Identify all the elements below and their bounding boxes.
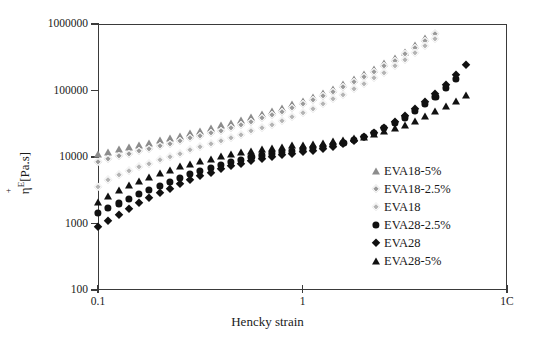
legend-marker-icon bbox=[368, 199, 384, 215]
data-point bbox=[156, 169, 164, 176]
legend-label: EVA28-5% bbox=[384, 255, 441, 268]
data-point bbox=[350, 135, 358, 142]
x-axis-title-text: Hencky strain bbox=[231, 314, 304, 329]
legend-label: EVA18-2.5% bbox=[384, 183, 451, 196]
data-point bbox=[431, 108, 439, 115]
chart-legend: EVA18-5%EVA18-2.5%EVA18EVA28-2.5%EVA28EV… bbox=[368, 162, 451, 270]
legend-item-eva28: EVA28 bbox=[368, 234, 451, 252]
data-point bbox=[247, 147, 255, 154]
data-point bbox=[196, 158, 204, 165]
data-point bbox=[319, 139, 327, 146]
legend-marker-icon bbox=[368, 217, 384, 233]
data-point bbox=[135, 177, 143, 184]
y-axis-title-text: ηE[Pa.s] bbox=[18, 152, 33, 194]
data-point bbox=[278, 143, 286, 150]
legend-label: EVA28-2.5% bbox=[384, 219, 451, 232]
legend-item-eva18: EVA18 bbox=[368, 198, 451, 216]
data-point bbox=[339, 137, 347, 144]
data-point bbox=[237, 149, 245, 156]
data-point bbox=[462, 91, 470, 98]
legend-item-eva28-5: EVA28-5% bbox=[368, 252, 451, 270]
data-point bbox=[299, 141, 307, 148]
data-point bbox=[391, 125, 399, 132]
data-point bbox=[380, 128, 388, 135]
y-axis-title: ηE[Pa.s] bbox=[14, 118, 36, 228]
y-axis-superscript-plus: + bbox=[6, 186, 11, 195]
data-point bbox=[309, 140, 317, 147]
legend-marker-icon bbox=[368, 253, 384, 269]
legend-marker-icon bbox=[368, 163, 384, 179]
data-series bbox=[0, 0, 535, 346]
legend-item-eva18-2-5: EVA18-2.5% bbox=[368, 180, 451, 198]
data-point bbox=[227, 151, 235, 158]
data-point bbox=[258, 146, 266, 153]
data-point bbox=[186, 160, 194, 167]
data-point bbox=[268, 144, 276, 151]
data-point bbox=[94, 199, 102, 206]
legend-marker-icon bbox=[368, 235, 384, 251]
data-point bbox=[288, 142, 296, 149]
data-point bbox=[217, 153, 225, 160]
data-point bbox=[115, 187, 123, 194]
data-point bbox=[452, 97, 460, 104]
data-point bbox=[411, 117, 419, 124]
data-point bbox=[145, 173, 153, 180]
data-point bbox=[176, 163, 184, 170]
data-point bbox=[207, 155, 215, 162]
legend-label: EVA18-5% bbox=[384, 165, 441, 178]
data-point bbox=[329, 138, 337, 145]
data-point bbox=[370, 131, 378, 138]
data-point bbox=[125, 182, 133, 189]
legend-item-eva28-2-5: EVA28-2.5% bbox=[368, 216, 451, 234]
legend-item-eva18-5: EVA18-5% bbox=[368, 162, 451, 180]
data-point bbox=[442, 103, 450, 110]
data-point bbox=[421, 113, 429, 120]
data-point bbox=[360, 133, 368, 140]
x-axis-title: Hencky strain bbox=[0, 314, 535, 330]
data-point bbox=[104, 192, 112, 199]
legend-label: EVA28 bbox=[384, 237, 421, 250]
data-point bbox=[401, 121, 409, 128]
legend-marker-icon bbox=[368, 181, 384, 197]
figure-eta-vs-hencky-strain: 1000000100000100001000100 0.111C ηE[Pa.s… bbox=[0, 0, 535, 346]
data-point bbox=[166, 166, 174, 173]
legend-label: EVA18 bbox=[384, 201, 421, 214]
